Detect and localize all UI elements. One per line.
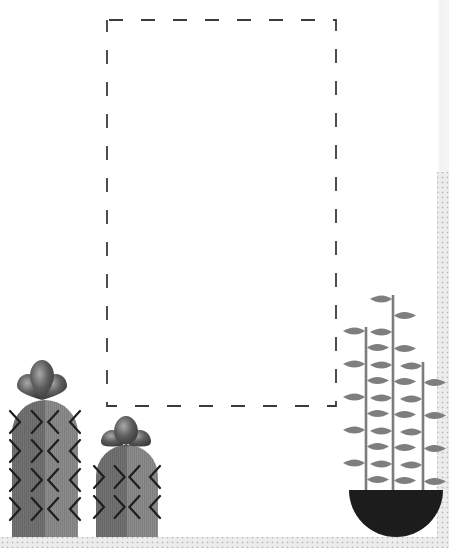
tall-cactus <box>10 360 80 537</box>
leaf <box>424 412 446 419</box>
leaf <box>394 345 416 352</box>
stem <box>365 327 368 492</box>
illustration <box>0 0 449 548</box>
leaf <box>424 379 446 386</box>
cactus-flower <box>101 416 151 447</box>
leaf <box>424 445 446 452</box>
leaf <box>343 394 365 401</box>
leaf <box>400 363 422 370</box>
flower-petal <box>114 416 138 445</box>
leaf <box>400 396 422 403</box>
leaf <box>370 428 392 435</box>
scene-svg <box>0 0 449 548</box>
leaf <box>370 329 392 336</box>
stem <box>422 362 425 492</box>
leaf <box>367 410 389 417</box>
short-cactus <box>94 416 160 537</box>
leaf <box>424 478 446 485</box>
cacti-group <box>10 360 160 537</box>
leaf <box>394 411 416 418</box>
leaf <box>370 395 392 402</box>
leaf <box>343 328 365 335</box>
leaf <box>367 476 389 483</box>
leaf <box>370 296 392 303</box>
cactus-flower <box>17 360 67 400</box>
plant-pot <box>349 490 443 537</box>
leaf <box>367 344 389 351</box>
cactus-body-right <box>127 445 158 537</box>
stem <box>392 295 395 492</box>
leaf <box>400 462 422 469</box>
dashed-rectangle <box>107 20 336 406</box>
leaf <box>367 443 389 450</box>
cactus-body-left <box>96 445 127 537</box>
dashed-placeholder-frame <box>107 20 336 406</box>
leaf <box>370 362 392 369</box>
leaf <box>394 444 416 451</box>
leaf <box>343 460 365 467</box>
leaf <box>367 377 389 384</box>
leaf <box>394 378 416 385</box>
leaf <box>343 427 365 434</box>
leaf <box>394 312 416 319</box>
leaf <box>400 429 422 436</box>
leaf <box>343 361 365 368</box>
potted-plant <box>343 295 446 537</box>
leaf <box>394 477 416 484</box>
leaf <box>370 461 392 468</box>
